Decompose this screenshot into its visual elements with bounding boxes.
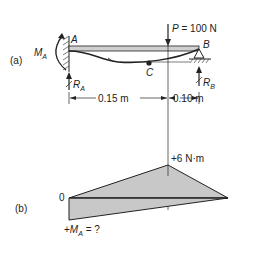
moment-arrow-ma (56, 33, 66, 70)
zero-label: 0 (59, 192, 65, 203)
peak-moment-label: +6 N·m (171, 153, 204, 164)
beam-diagram: (a) MA A C P = 100 N (0, 0, 263, 258)
point-a-label: A (70, 34, 78, 45)
dimension-ac-label: 0.15 m (98, 93, 129, 104)
moment-ma-query: +MA = ? (64, 224, 100, 237)
reaction-arrow-ra (66, 72, 72, 90)
dimension-cb-label: 0.10 m (173, 93, 204, 104)
fixed-wall-a (63, 36, 69, 72)
moment-diagram (69, 165, 228, 220)
reaction-ra-label: RA (73, 79, 85, 92)
load-label: P = 100 N (172, 23, 217, 34)
reaction-arrow-rb (196, 66, 202, 86)
beam (69, 46, 199, 51)
part-b-label: (b) (15, 203, 27, 214)
point-b-label: B (203, 39, 210, 50)
part-a-label: (a) (10, 55, 22, 66)
point-c (146, 60, 151, 65)
moment-ma-label: MA (34, 47, 47, 60)
point-c-label: C (146, 67, 154, 78)
reaction-rb-label: RB (203, 77, 215, 90)
